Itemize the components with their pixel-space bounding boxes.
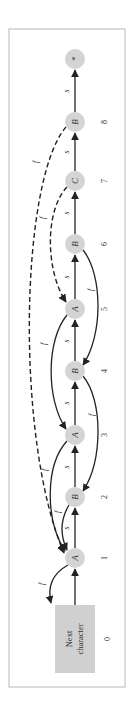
- index-label-4: 4: [100, 369, 109, 373]
- svg-text:C: C: [70, 177, 80, 184]
- box-text-line2: character: [75, 623, 85, 654]
- svg-text:A: A: [70, 432, 80, 439]
- box-text-line1: Next: [64, 630, 74, 647]
- next-character-box: Next character: [55, 605, 95, 673]
- s-label: s: [62, 89, 71, 92]
- svg-text:A: A: [70, 306, 80, 313]
- svg-text:A: A: [70, 555, 80, 562]
- index-label-2: 2: [100, 495, 109, 499]
- s-label: s: [62, 339, 71, 342]
- s-label: s: [62, 150, 71, 153]
- state-node-8: B: [65, 112, 85, 132]
- index-label-7: 7: [100, 179, 109, 183]
- state-node-4: B: [65, 361, 85, 381]
- s-label: s: [62, 401, 71, 404]
- state-node-2: B: [65, 487, 85, 507]
- state-node-1: A: [65, 548, 85, 568]
- svg-text:*: *: [70, 56, 80, 61]
- final-node: *: [65, 49, 85, 69]
- index-label-8: 8: [100, 120, 109, 124]
- s-label: s: [62, 211, 71, 214]
- state-node-7: C: [65, 171, 85, 191]
- s-label: s: [62, 526, 71, 529]
- index-label-0: 0: [103, 637, 112, 641]
- state-node-5: A: [65, 299, 85, 319]
- automaton-diagram: Next character 0 s s s s s s s s: [0, 0, 130, 712]
- s-label: s: [62, 465, 71, 468]
- state-node-3: A: [65, 425, 85, 445]
- svg-text:B: B: [70, 494, 80, 500]
- index-label-3: 3: [100, 433, 109, 437]
- index-label-5: 5: [100, 307, 109, 311]
- index-label-6: 6: [100, 242, 109, 246]
- svg-text:B: B: [70, 241, 80, 247]
- state-node-6: B: [65, 234, 85, 254]
- svg-text:B: B: [70, 119, 80, 125]
- svg-text:B: B: [70, 368, 80, 374]
- s-label: s: [62, 275, 71, 278]
- index-label-1: 1: [100, 556, 109, 560]
